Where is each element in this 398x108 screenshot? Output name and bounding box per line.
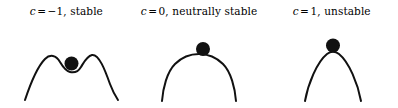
panel-unstable: c=1, unstable	[265, 0, 398, 108]
potential-curve-neutrally-stable	[162, 54, 236, 101]
caption-operator: =	[299, 5, 311, 17]
caption-description: unstable	[324, 5, 371, 17]
caption-description: neutrally stable	[172, 5, 257, 17]
ball-icon-unstable	[326, 39, 340, 53]
panel-caption-neutrally-stable: c=0, neutrally stable	[133, 4, 266, 18]
caption-variable: c	[141, 5, 147, 17]
figure-container: c=−1, stable c=0, neutrally stable c=1, …	[0, 0, 398, 108]
ball-icon-stable	[64, 57, 78, 71]
panel-stable: c=−1, stable	[0, 0, 133, 108]
caption-value: 1,	[311, 5, 321, 17]
caption-operator: =	[147, 5, 159, 17]
caption-value: 0,	[159, 5, 169, 17]
caption-variable: c	[293, 5, 299, 17]
ball-icon-neutrally-stable	[196, 42, 210, 56]
plot-area-neutrally-stable	[133, 22, 266, 108]
plot-area-unstable	[265, 22, 398, 108]
caption-description: stable	[70, 5, 103, 17]
panel-caption-unstable: c=1, unstable	[265, 4, 398, 18]
panel-caption-stable: c=−1, stable	[0, 4, 133, 18]
caption-variable: c	[30, 5, 36, 17]
plot-area-stable	[0, 22, 133, 108]
caption-operator: =	[36, 5, 48, 17]
potential-curve-unstable	[305, 52, 361, 101]
panel-neutrally-stable: c=0, neutrally stable	[133, 0, 266, 108]
caption-value: −1,	[48, 5, 67, 17]
